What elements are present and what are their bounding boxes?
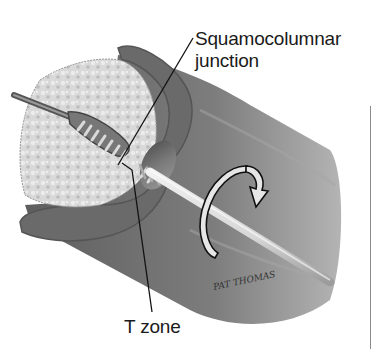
t-zone-label: T zone: [124, 316, 181, 338]
scj-label-line1: Squamocolumnar: [195, 28, 341, 49]
frame-edge-line: [370, 106, 371, 349]
squamocolumnar-junction-label: Squamocolumnar junction: [195, 28, 341, 72]
figure-canvas: PAT THOMAS Squamocolumnar junction T zon…: [0, 0, 372, 349]
scj-label-line2: junction: [195, 50, 341, 72]
